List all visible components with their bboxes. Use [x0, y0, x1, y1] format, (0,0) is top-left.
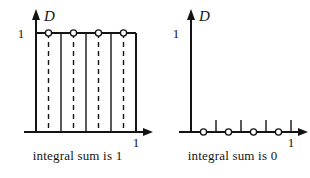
plot-panel-left: D 1 1 integral sum is 1: [0, 0, 155, 178]
y-tick-label-right: 1: [173, 26, 180, 41]
caption-right: integral sum is 0: [155, 148, 310, 164]
open-circle-marker: [225, 129, 231, 135]
plot-panel-right: D 1 1 integral sum is 0: [155, 0, 310, 178]
caption-left: integral sum is 1: [0, 148, 155, 164]
open-circle-marker: [200, 129, 206, 135]
y-tick-label-left: 1: [18, 26, 25, 41]
open-circle-marker: [95, 30, 101, 36]
y-axis-left: [32, 9, 40, 132]
open-circle-marker: [275, 129, 281, 135]
y-axis-right: [187, 9, 195, 132]
plot-left-svg: D 1 1: [0, 0, 155, 150]
y-axis-label-right: D: [198, 8, 210, 24]
open-circle-marker: [70, 30, 76, 36]
dirichlet-function-figure: D 1 1 integral sum is 1: [0, 0, 310, 178]
open-circle-marker: [120, 30, 126, 36]
open-circle-marker: [250, 129, 256, 135]
plot-right-svg: D 1 1: [155, 0, 310, 150]
partition-lines-left: [61, 33, 111, 132]
open-circle-marker: [45, 30, 51, 36]
y-axis-label-left: D: [43, 8, 55, 24]
